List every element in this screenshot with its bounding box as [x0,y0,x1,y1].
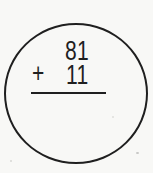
scan-speck [136,152,139,154]
plus-operator-icon: + [32,60,45,87]
scan-speck [112,116,114,118]
scan-speck [10,160,12,162]
addend-bottom: 11 [66,62,89,89]
sum-line [31,92,106,94]
worksheet-scan: 81 + 11 [0,0,153,173]
